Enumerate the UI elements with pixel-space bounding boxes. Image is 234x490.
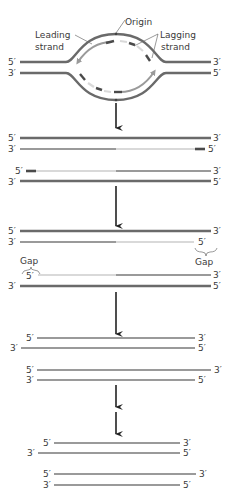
leading-strand-label-line1: Leading [35, 30, 71, 40]
stage4-a-bottom-left-end: 3′ [10, 343, 18, 353]
stage3-a-bottom-left-end: 3′ [8, 237, 16, 247]
stage2-a-top-right-end: 3′ [213, 133, 221, 143]
stage4-a-top-left-end: 5′ [26, 333, 34, 343]
stage3-b-bottom-left-end: 3′ [8, 281, 16, 291]
stage3-a-top-left-end: 5′ [8, 226, 16, 236]
stage5-a-bottom-left-end: 3′ [27, 448, 35, 458]
stage5-b-bottom-right-end: 5′ [183, 480, 191, 490]
stage-4-daughter-duplexes: 5′ 3′ 3′ 5′ 5′ 3′ 3′ 5′ [10, 333, 222, 385]
stage2-a-bottom-left-end: 3′ [8, 144, 16, 154]
stage5-b-top-left-end: 5′ [43, 469, 51, 479]
stage1-bottom-left-end: 3′ [8, 68, 16, 78]
okazaki-fragment [137, 46, 143, 51]
stage3-b-top-right-end: 3′ [213, 270, 221, 280]
stage5-b-bottom-left-end: 3′ [43, 480, 51, 490]
stage2-a-top-left-end: 5′ [8, 133, 16, 143]
stage-5-shortened-duplexes: 5′ 3′ 3′ 5′ 5′ 3′ 3′ 5′ [27, 438, 207, 490]
stage3-b-bottom-right-end: 5′ [213, 281, 221, 291]
origin-pointer [116, 20, 125, 33]
stage2-b-top-right-end: 3′ [213, 166, 221, 176]
gap-label-left: Gap [20, 256, 38, 266]
leading-pointer [75, 35, 92, 44]
stage1-bottom-right-end: 5′ [213, 68, 221, 78]
stage4-b-bottom-right-end: 5′ [198, 375, 206, 385]
stage-3-primers-removed: 5′ 3′ 3′ 5′ Gap Gap 5′ 3′ 3′ 5′ [8, 226, 221, 291]
origin-dot-top [115, 33, 118, 36]
stage5-b-top-right-end: 3′ [199, 469, 207, 479]
origin-dot-bottom [115, 99, 118, 102]
stage1-top-right-end: 3′ [213, 57, 221, 67]
gap-label-right: Gap [195, 257, 213, 267]
stage3-a-top-right-end: 3′ [213, 226, 221, 236]
stage2-b-bottom-right-end: 5′ [213, 177, 221, 187]
stage3-a-bottom-right-end: 5′ [198, 237, 206, 247]
okazaki-fragment [104, 91, 111, 92]
stage5-a-bottom-right-end: 5′ [183, 448, 191, 458]
gap-brace-right [195, 248, 217, 256]
parental-strand-bottom [20, 73, 211, 100]
dna-replication-diagram: Origin Leading strand Lagging strand 5′ … [0, 0, 234, 490]
stage4-a-bottom-right-end: 5′ [198, 343, 206, 353]
stage-2-primers-present: 5′ 3′ 3′ 5′ 5′ 3′ 3′ 5′ [8, 133, 221, 187]
primer [129, 43, 135, 45]
stage3-b-top-left-end: 5′ [26, 271, 34, 281]
stage2-a-bottom-right-end: 5′ [208, 144, 216, 154]
stage-1-replication-bubble: Origin Leading strand Lagging strand 5′ … [8, 17, 221, 101]
stage4-a-top-right-end: 3′ [198, 333, 206, 343]
lagging-strand-label-line1: Lagging [160, 30, 196, 40]
okazaki-fragment [120, 41, 127, 42]
stage5-a-top-right-end: 3′ [183, 438, 191, 448]
primer [80, 74, 85, 80]
stage4-b-top-right-end: 3′ [214, 365, 222, 375]
stage4-b-top-left-end: 5′ [26, 365, 34, 375]
stage5-a-top-left-end: 5′ [43, 438, 51, 448]
leading-strand-label-line2: strand [35, 42, 64, 52]
origin-label: Origin [125, 17, 152, 27]
lagging-strand-label-line2: strand [161, 42, 190, 52]
primer [146, 55, 150, 61]
stage4-b-bottom-left-end: 3′ [26, 375, 34, 385]
primer [96, 88, 102, 90]
stage2-b-bottom-left-end: 3′ [8, 177, 16, 187]
okazaki-fragment [88, 83, 94, 87]
stage2-b-top-left-end: 5′ [15, 166, 23, 176]
stage1-top-left-end: 5′ [8, 57, 16, 67]
